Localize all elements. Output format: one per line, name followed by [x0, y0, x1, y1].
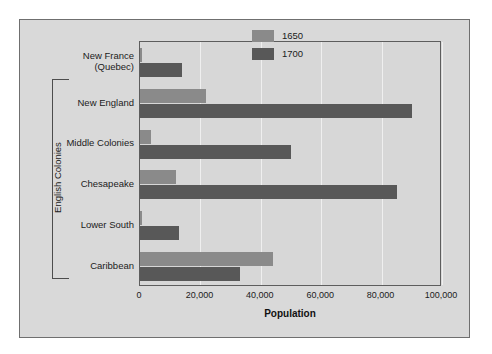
- category-label-line: New England: [26, 97, 134, 109]
- chart-legend: 16501700: [252, 28, 314, 64]
- x-tick-label: 60,000: [306, 290, 334, 300]
- category-label: New England: [26, 97, 134, 109]
- gridline: [382, 42, 383, 285]
- category-label: New France(Quebec): [26, 50, 134, 73]
- category-label: Caribbean: [26, 260, 134, 272]
- x-tick-label: 40,000: [246, 290, 274, 300]
- legend-swatch: [252, 30, 274, 42]
- category-label-line: Lower South: [26, 219, 134, 231]
- category-label: Lower South: [26, 219, 134, 231]
- bar: [140, 226, 179, 240]
- category-label-line: New France: [26, 50, 134, 62]
- x-axis-title: Population: [139, 308, 441, 319]
- x-tick-label: 80,000: [367, 290, 395, 300]
- bracket-bottom-tick: [52, 278, 69, 279]
- gridline: [200, 42, 201, 285]
- legend-label: 1650: [282, 30, 303, 41]
- bar: [140, 145, 291, 159]
- category-label-line: (Quebec): [26, 61, 134, 73]
- bar: [140, 170, 176, 184]
- category-label-line: Middle Colonies: [26, 137, 134, 149]
- category-label-line: Chesapeake: [26, 178, 134, 190]
- chart-figure: New France(Quebec)New EnglandMiddle Colo…: [19, 19, 470, 338]
- category-axis-labels: New France(Quebec)New EnglandMiddle Colo…: [20, 41, 134, 286]
- category-label: Middle Colonies: [26, 137, 134, 149]
- bar: [140, 48, 142, 62]
- bracket-label: English Colonies: [52, 118, 63, 238]
- gridline: [321, 42, 322, 285]
- legend-item: 1650: [252, 28, 314, 43]
- bar: [140, 89, 206, 103]
- bar: [140, 63, 182, 77]
- bar: [140, 252, 273, 266]
- legend-swatch: [252, 48, 274, 60]
- bar: [140, 130, 151, 144]
- x-tick-label: 20,000: [186, 290, 214, 300]
- category-label: Chesapeake: [26, 178, 134, 190]
- english-colonies-bracket: English Colonies: [52, 79, 69, 279]
- legend-label: 1700: [282, 48, 303, 59]
- gridline: [442, 42, 443, 285]
- bar: [140, 185, 397, 199]
- bar: [140, 211, 142, 225]
- x-tick-label: 100,000: [425, 290, 458, 300]
- bar: [140, 104, 412, 118]
- x-tick-label: 0: [136, 290, 141, 300]
- plot-area: [139, 41, 441, 286]
- gridline: [261, 42, 262, 285]
- legend-item: 1700: [252, 46, 314, 61]
- bracket-top-tick: [52, 79, 69, 80]
- bar: [140, 267, 240, 281]
- category-label-line: Caribbean: [26, 260, 134, 272]
